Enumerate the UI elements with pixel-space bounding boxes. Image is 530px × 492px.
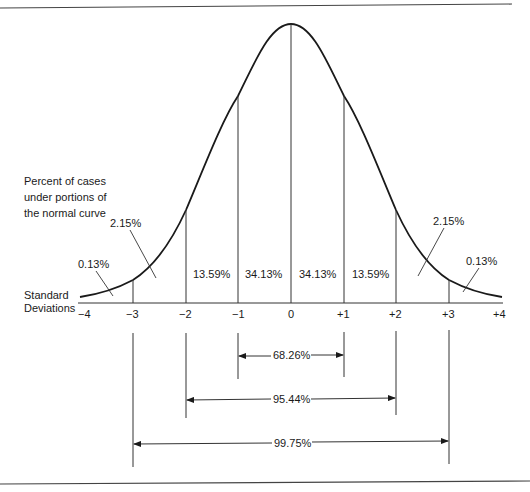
region-label-minus4-minus3: 0.13% [78, 257, 109, 272]
region-label-plus1-plus2: 13.59% [352, 267, 389, 282]
arrow-95-left [187, 399, 271, 400]
span-label-3sd: 99.75% [274, 436, 311, 451]
region-label-plus2-plus3: 2.15% [433, 214, 464, 229]
curve-caption: Percent of cases under portions of the n… [24, 173, 164, 221]
leader-left-2-15 [130, 230, 156, 278]
caption-line: the normal curve [24, 205, 164, 221]
normal-curve-diagram [0, 0, 530, 492]
span-label-1sd: 68.26% [273, 348, 310, 363]
region-label-minus1-zero: 34.13% [245, 267, 282, 282]
region-label-minus3-minus2: 2.15% [110, 216, 141, 231]
tick-minus4: −4 [78, 307, 91, 322]
arrow-99-right [312, 441, 448, 442]
tick-plus2: +2 [389, 307, 402, 322]
tick-minus2: −2 [179, 307, 192, 322]
arrow-95-right [311, 398, 395, 399]
arrow-99-left [134, 443, 272, 444]
bottom-rule [0, 481, 530, 484]
tick-zero: 0 [288, 307, 294, 322]
caption-line: under portions of [24, 189, 164, 205]
top-rule [0, 4, 512, 8]
leader-right-0-13 [463, 268, 479, 292]
region-label-plus3-plus4: 0.13% [466, 254, 497, 269]
axis-label-line-2: Deviations [24, 301, 75, 316]
caption-line: Percent of cases [24, 173, 164, 189]
region-label-zero-plus1: 34.13% [299, 267, 336, 282]
region-label-minus2-minus1: 13.59% [193, 267, 230, 282]
tick-plus4: +4 [493, 307, 506, 322]
span-label-2sd: 95.44% [273, 392, 310, 407]
tick-minus3: −3 [126, 307, 139, 322]
tick-plus3: +3 [442, 307, 455, 322]
tick-plus1: +1 [337, 307, 350, 322]
tick-minus1: −1 [232, 307, 245, 322]
leader-right-2-15 [418, 228, 444, 276]
